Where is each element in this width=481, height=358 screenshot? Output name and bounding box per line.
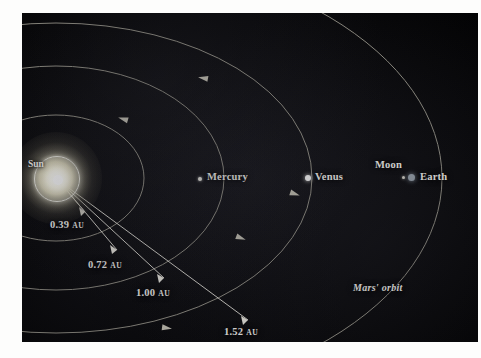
distance-value-venus: 0.72 <box>88 259 107 270</box>
distance-label-earth: 1.00AU <box>136 287 170 298</box>
mercury-dot <box>198 177 202 181</box>
solar-system-figure: Sun Mercury Venus Moon Earth Mars' orbit… <box>0 0 481 358</box>
distance-label-venus: 0.72AU <box>88 259 122 270</box>
venus-label: Venus <box>315 171 343 182</box>
mars-orbit-label: Mars' orbit <box>353 282 403 293</box>
diagram-panel: Sun Mercury Venus Moon Earth Mars' orbit… <box>22 13 478 342</box>
mercury-label: Mercury <box>207 171 248 182</box>
distance-label-mercury: 0.39AU <box>50 219 84 230</box>
sun-label: Sun <box>28 159 44 169</box>
earth-label: Earth <box>420 171 447 182</box>
distance-unit-venus: AU <box>110 261 122 270</box>
distance-value-mars: 1.52 <box>224 326 243 337</box>
moon-label: Moon <box>375 159 402 170</box>
earth-dot <box>408 174 415 181</box>
distance-value-mercury: 0.39 <box>50 219 69 230</box>
distance-unit-earth: AU <box>158 289 170 298</box>
distance-label-mars: 1.52AU <box>224 326 258 337</box>
sun-core <box>53 175 63 185</box>
distance-unit-mercury: AU <box>72 221 84 230</box>
distance-value-earth: 1.00 <box>136 287 155 298</box>
venus-dot <box>305 175 311 181</box>
distance-unit-mars: AU <box>246 328 258 337</box>
